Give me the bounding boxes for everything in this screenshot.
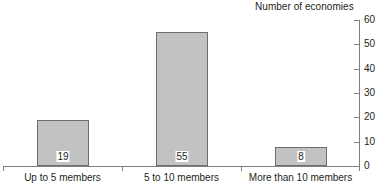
chart-title: Number of economies	[255, 1, 365, 13]
y-axis-tick-label: 10	[364, 137, 375, 147]
bar-chart: Number of economies 0102030405060 19 55 …	[0, 0, 389, 190]
y-axis-line	[359, 20, 360, 167]
x-axis-line	[3, 166, 360, 167]
bar-value-label-0: 19	[56, 151, 69, 162]
x-axis-category-label-0: Up to 5 members	[3, 172, 122, 184]
bar-value-label-2: 8	[297, 151, 305, 162]
x-axis-tick	[359, 167, 360, 171]
y-axis-tick	[354, 44, 359, 45]
bar-0[interactable]: 19	[37, 120, 89, 166]
x-axis-tick	[3, 167, 4, 171]
y-axis-tick-label: 40	[364, 64, 375, 74]
bar-value-label-1: 55	[175, 151, 188, 162]
y-axis-tick-label: 0	[364, 161, 370, 171]
y-axis-tick	[354, 93, 359, 94]
y-axis-tick-label: 30	[364, 88, 375, 98]
x-axis-category-label-1: 5 to 10 members	[122, 172, 241, 184]
y-axis-tick	[354, 117, 359, 118]
y-axis-tick	[354, 69, 359, 70]
y-axis-tick	[354, 20, 359, 21]
bar-2[interactable]: 8	[275, 147, 327, 166]
x-axis-category-label-2: More than 10 members	[241, 172, 360, 184]
y-axis-tick-label: 20	[364, 112, 375, 122]
x-axis-tick	[122, 167, 123, 171]
bar-1[interactable]: 55	[156, 32, 208, 166]
y-axis-tick-label: 60	[364, 15, 375, 25]
y-axis-tick	[354, 142, 359, 143]
x-axis-tick	[241, 167, 242, 171]
y-axis-tick-label: 50	[364, 39, 375, 49]
